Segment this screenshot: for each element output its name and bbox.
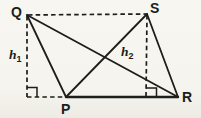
vertex-label-Q: Q (11, 4, 22, 20)
geometry-figure: Q S P R h1 h2 (0, 0, 201, 118)
height-label-h2-subscript: 2 (129, 51, 134, 61)
dashed-height-h2-from-S (146, 15, 147, 97)
height-label-h1-subscript: 1 (17, 54, 22, 64)
height-label-h1: h1 (9, 47, 22, 64)
vertex-label-S: S (150, 0, 159, 16)
right-angle-marker-right (146, 88, 157, 97)
height-label-h2: h2 (121, 44, 134, 61)
segment-QP (27, 15, 66, 97)
dashed-top-edge-QS (28, 14, 147, 15)
diagram-canvas: Q S P R h1 h2 (0, 0, 201, 118)
height-label-h2-base: h (121, 44, 129, 59)
height-label-h1-base: h (9, 47, 17, 62)
segment-QR-diagonal (27, 15, 178, 97)
segment-SR (147, 14, 178, 97)
segment-PS-diagonal (66, 14, 147, 97)
right-angle-marker-left (27, 88, 37, 98)
vertex-label-P: P (61, 101, 70, 117)
vertex-label-R: R (182, 89, 192, 105)
